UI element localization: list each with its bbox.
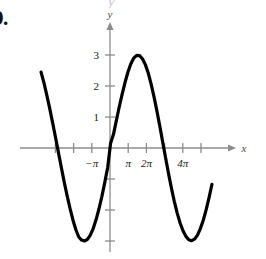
x-axis: x	[20, 142, 247, 154]
y-axis-tick-labels: 123	[94, 49, 100, 123]
x-tick-label: 4π	[177, 157, 189, 169]
y-tick-label: 1	[94, 111, 100, 123]
x-axis-label: x	[241, 142, 247, 154]
y-tick-label: 2	[94, 80, 100, 92]
x-tick-label: π	[125, 157, 131, 169]
x-axis-arrowhead	[228, 144, 236, 151]
y-axis-label: y	[107, 8, 113, 20]
figure-container: y 9. x y −ππ2π4π 123	[0, 0, 266, 259]
y-axis: y	[106, 8, 113, 252]
y-tick-label: 3	[94, 49, 100, 61]
graph-plot: x y −ππ2π4π 123	[0, 0, 266, 259]
x-axis-tick-labels: −ππ2π4π	[85, 157, 188, 169]
y-axis-arrowhead	[106, 22, 113, 30]
x-tick-label: −π	[85, 157, 98, 169]
x-tick-label: 2π	[141, 157, 153, 169]
